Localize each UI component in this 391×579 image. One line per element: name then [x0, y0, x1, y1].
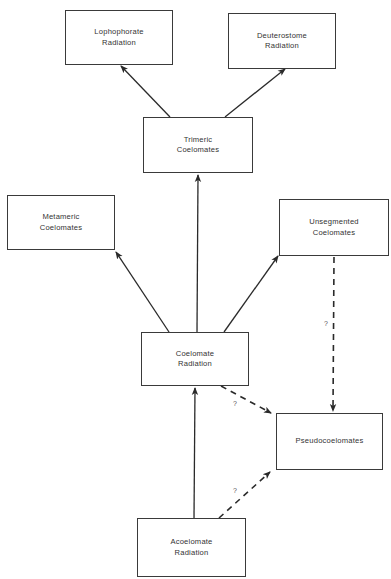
node-label: Unsegmented Coelomates [309, 217, 358, 238]
node-metameric-coelomates: Metameric Coelomates [7, 195, 115, 250]
edge-coelomate-to-trimeric [197, 175, 198, 332]
node-acoelomate-radiation: Acoelomate Radiation [137, 518, 246, 577]
node-coelomate-radiation: Coelomate Radiation [141, 332, 249, 386]
node-label: Trimeric Coelomates [177, 135, 220, 156]
node-lophophorate-radiation: Lophophorate Radiation [65, 10, 173, 65]
edge-label-acoelomate-to-pseudo: ? [233, 487, 237, 494]
edge-coelomate-to-metameric [116, 252, 169, 332]
edge-label-unsegmented-to-pseudo: ? [324, 320, 328, 327]
node-label: Acoelomate Radiation [170, 537, 212, 558]
edge-trimeric-to-lophophorate [121, 66, 170, 117]
edges-layer [0, 0, 391, 579]
edge-trimeric-to-deuterostome [225, 69, 285, 117]
edge-coelomate-to-unsegmented [224, 256, 278, 332]
node-label: Deuterostome Radiation [257, 31, 307, 52]
node-label: Coelomate Radiation [176, 349, 215, 370]
node-pseudocoelomates: Pseudocoelomates [276, 413, 383, 470]
edge-unsegmented-to-pseudo [333, 257, 334, 411]
node-label: Lophophorate Radiation [94, 27, 143, 48]
edge-label-coelomate-to-pseudo: ? [233, 400, 237, 407]
edge-acoelomate-to-pseudo [219, 472, 270, 518]
edge-coelomate-to-pseudo [221, 386, 271, 413]
node-unsegmented-coelomates: Unsegmented Coelomates [279, 199, 389, 256]
node-trimeric-coelomates: Trimeric Coelomates [143, 117, 253, 173]
diagram-canvas: Lophophorate Radiation Deuterostome Radi… [0, 0, 391, 579]
edge-acoelomate-to-coelomate [194, 388, 195, 518]
node-label: Pseudocoelomates [296, 436, 364, 447]
node-label: Metameric Coelomates [40, 212, 83, 233]
node-deuterostome-radiation: Deuterostome Radiation [228, 13, 336, 69]
